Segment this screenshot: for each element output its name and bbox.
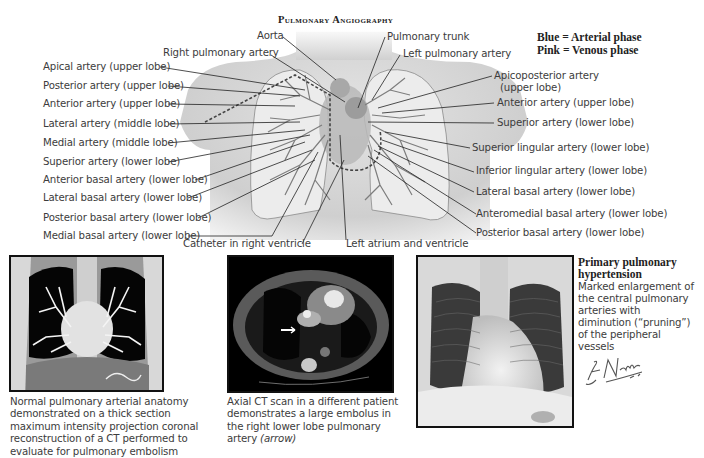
label-anterior-basal-artery: Anterior basal artery (lower lobe) [43,174,208,186]
label-anterior-artery-upper: Anterior artery (upper lobe) [43,98,180,110]
heart [319,85,371,165]
caption-axial-ct: Axial CT scan in a different patient dem… [227,396,402,446]
label-catheter-right-ventricle: Catheter in right ventricle [183,238,311,250]
xray-heading-line2: hypertension [578,268,642,280]
label-pulmonary-trunk: Pulmonary trunk [387,31,469,43]
pulmonary-trunk-vessel [345,97,367,119]
xray-heading-line1: Primary pulmonary [578,256,677,268]
label-superior-lingular-artery: Superior lingular artery (lower lobe) [472,142,649,154]
label-lateral-artery-middle: Lateral artery (middle lobe) [43,118,179,130]
label-medial-artery-middle: Medial artery (middle lobe) [43,137,178,149]
label-lateral-basal-artery-left: Lateral basal artery (lower lobe) [476,186,635,198]
label-medial-basal-artery: Medial basal artery (lower lobe) [43,230,200,242]
label-apical-artery: Apical artery (upper lobe) [43,61,170,73]
caption-axial-ct-text: Axial CT scan in a different patient dem… [227,396,398,444]
netter-signature: F. Netter M.D. [582,350,654,390]
label-superior-artery-left-lower: Superior artery (lower lobe) [497,117,634,129]
label-right-pulmonary-artery: Right pulmonary artery [163,47,279,59]
axial-ct-image [227,255,394,393]
label-anterior-artery-left-upper: Anterior artery (upper lobe) [497,97,634,109]
label-apicoposterior-lobe: (upper lobe) [500,82,561,94]
caption-axial-ct-arrow-note: (arrow) [260,433,296,444]
label-superior-artery-lower: Superior artery (lower lobe) [43,156,180,168]
label-posterior-basal-artery-left: Posterior basal artery (lower lobe) [476,227,644,239]
label-left-pulmonary-artery: Left pulmonary artery [403,48,511,60]
label-aorta: Aorta [257,30,284,42]
label-anteromedial-basal-artery: Anteromedial basal artery (lower lobe) [476,208,667,220]
aortic-arch [330,78,350,98]
xray-description: Marked enlargement of the central pulmon… [578,281,696,353]
chest-xray-image [416,255,574,428]
label-posterior-basal-artery-right: Posterior basal artery (lower lobe) [43,212,211,224]
label-left-atrium-ventricle: Left atrium and ventricle [346,238,468,250]
coronal-mip-ct-image [9,255,164,392]
caption-coronal-ct: Normal pulmonary arterial anatomy demons… [10,396,220,458]
label-apicoposterior-artery: Apicoposterior artery [494,70,599,82]
label-posterior-artery-upper: Posterior artery (upper lobe) [43,80,184,92]
label-inferior-lingular-artery: Inferior lingular artery (lower lobe) [476,165,647,177]
label-lateral-basal-artery-right: Lateral basal artery (lower lobe) [43,192,202,204]
